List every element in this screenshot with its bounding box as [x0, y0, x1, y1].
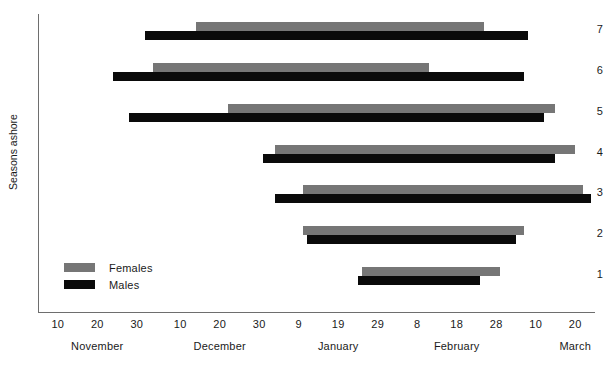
x-axis-tick-label: 20 — [569, 318, 582, 330]
x-axis-month-label: February — [434, 340, 480, 352]
bar-males-season-5 — [129, 113, 544, 122]
legend-item-females[interactable]: Females — [64, 259, 153, 276]
bar-females-season-4 — [275, 145, 575, 154]
y-axis-line — [38, 14, 39, 312]
bar-females-season-5 — [228, 104, 556, 113]
bar-males-season-3 — [275, 194, 591, 203]
legend-label: Males — [109, 279, 139, 291]
x-axis-tick-label: 20 — [213, 318, 226, 330]
x-axis-tick-label: 30 — [130, 318, 143, 330]
x-axis-tick-label: 10 — [174, 318, 187, 330]
bar-females-season-7 — [196, 22, 484, 31]
x-axis-tick-label: 30 — [253, 318, 266, 330]
x-axis-tick-label: 8 — [414, 318, 420, 330]
legend-item-males[interactable]: Males — [64, 276, 153, 293]
y-axis-tick-label: 2 — [575, 227, 603, 239]
chart-legend: FemalesMales — [64, 259, 153, 293]
x-axis-tick-label: 10 — [51, 318, 64, 330]
seasons-ashore-chart: Seasons ashore 1234567 10203010203091929… — [0, 0, 603, 366]
legend-label: Females — [109, 262, 153, 274]
x-axis-month-label: March — [559, 340, 591, 352]
y-axis-title: Seasons ashore — [7, 114, 19, 190]
bar-males-season-7 — [145, 31, 528, 40]
x-axis-tick-label: 20 — [91, 318, 104, 330]
bar-females-season-3 — [303, 185, 583, 194]
y-axis-tick-label: 1 — [575, 268, 603, 280]
bar-females-season-6 — [153, 63, 430, 72]
y-axis-tick-label: 4 — [575, 146, 603, 158]
y-axis-tick-label: 7 — [575, 23, 603, 35]
x-axis-tick-label: 18 — [450, 318, 463, 330]
legend-swatch-icon — [64, 263, 95, 272]
bar-males-season-2 — [307, 235, 516, 244]
bar-females-season-1 — [362, 267, 500, 276]
x-axis-tick-label: 28 — [490, 318, 503, 330]
x-axis-month-label: January — [318, 340, 359, 352]
bar-males-season-4 — [263, 154, 555, 163]
x-axis-tick-label: 10 — [529, 318, 542, 330]
x-axis-tick-label: 9 — [296, 318, 302, 330]
x-axis-tick-label: 19 — [332, 318, 345, 330]
y-axis-tick-label: 5 — [575, 105, 603, 117]
legend-swatch-icon — [64, 280, 95, 289]
bar-males-season-6 — [113, 72, 524, 81]
bar-females-season-2 — [303, 226, 524, 235]
bar-males-season-1 — [358, 276, 480, 285]
x-axis-tick-label: 29 — [371, 318, 384, 330]
x-axis-line — [38, 312, 595, 313]
y-axis-tick-label: 6 — [575, 64, 603, 76]
x-axis-month-label: November — [71, 340, 123, 352]
x-axis-month-label: December — [194, 340, 246, 352]
